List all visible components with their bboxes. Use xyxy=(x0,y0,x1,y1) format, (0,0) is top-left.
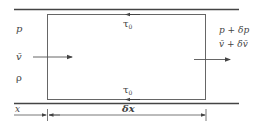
bottom-shear-subscript: 0 xyxy=(129,89,133,96)
inlet-velocity-label: v̄ xyxy=(16,51,22,62)
position-label: x xyxy=(15,104,20,114)
top-shear-subscript: 0 xyxy=(129,23,133,30)
inlet-density-label: ρ xyxy=(16,72,22,83)
outlet-velocity-label: v̄ + δv̄ xyxy=(219,39,248,49)
outlet-pressure-label: p + δp xyxy=(219,25,249,35)
top-shear-label: τ0 xyxy=(123,18,133,30)
inlet-pressure-label: p xyxy=(16,23,23,34)
length-label: δx xyxy=(121,103,136,114)
bottom-shear-label: τ0 xyxy=(123,84,133,96)
control-volume-diagram: p v̄ ρ p + δp v̄ + δv̄ τ0 τ0 x δx xyxy=(0,0,256,130)
